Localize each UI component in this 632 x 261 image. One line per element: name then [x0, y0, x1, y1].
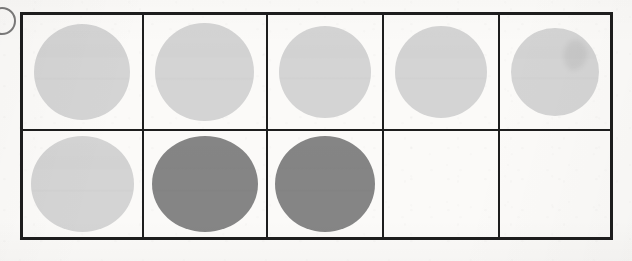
circle-r1c3 — [279, 26, 372, 119]
grid-cell-r1c4[interactable] — [382, 15, 498, 129]
circle-r2c3 — [275, 136, 375, 232]
grid-cell-r1c1[interactable] — [23, 15, 142, 129]
grid-cell-r2c2[interactable] — [142, 131, 266, 237]
grid-cell-r1c2[interactable] — [142, 15, 266, 129]
grid-cell-r1c3[interactable] — [266, 15, 383, 129]
circle-r1c2 — [155, 23, 254, 122]
grid-cell-r2c4[interactable] — [382, 131, 498, 237]
partial-ink-arc-icon — [0, 7, 16, 35]
grid-row — [23, 129, 610, 237]
circle-r1c5 — [511, 28, 599, 116]
circle-r1c1 — [34, 24, 130, 120]
circle-r2c2 — [152, 136, 258, 232]
scan-smudge-r1c5 — [564, 40, 587, 70]
grid-cell-r1c5[interactable] — [498, 15, 610, 129]
scanned-page — [0, 0, 632, 261]
circle-r2c1 — [31, 136, 134, 232]
grid-cell-r2c1[interactable] — [23, 131, 142, 237]
grid-row — [23, 15, 610, 129]
circle-grid-table — [20, 12, 613, 240]
circle-r1c4 — [395, 26, 487, 118]
grid-cell-r2c3[interactable] — [266, 131, 383, 237]
grid-cell-r2c5[interactable] — [498, 131, 610, 237]
